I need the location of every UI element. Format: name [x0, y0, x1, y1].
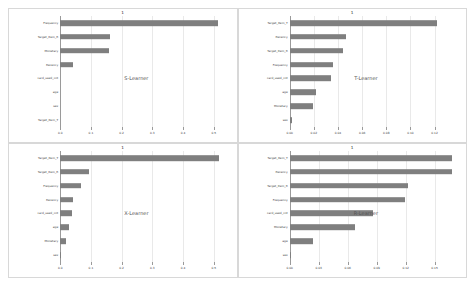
x-tick-label: 0.12: [431, 131, 437, 135]
x-tick-mark: [435, 262, 436, 264]
y-tick-label: sex: [283, 118, 288, 122]
x-tick-mark: [183, 127, 184, 129]
y-tick-label: sex: [283, 253, 288, 257]
plot-area-t-learner: Target_Item_TRecencyTarget_Item_RFrequen…: [290, 16, 459, 127]
x-tick-label: 0.3: [150, 266, 155, 270]
x-tick-label: 0.02: [311, 131, 317, 135]
y-tick-label: age: [282, 239, 287, 243]
gridline-t-learner-2: [338, 16, 339, 127]
bar-monetary: [290, 103, 313, 109]
plot-area-r-learner: Target_Item_TRecencyTarget_Item_RFrequen…: [290, 151, 459, 262]
y-tick-label: age: [53, 90, 58, 94]
gridline-r-learner-1: [319, 151, 320, 262]
x-tick-mark: [338, 127, 339, 129]
x-tick-label: 0.5: [212, 131, 217, 135]
bar-recency: [290, 34, 347, 40]
bar-card-used-cnt: [290, 76, 331, 82]
y-tick-label: Target_Item_R: [267, 49, 287, 53]
bar-target-item-r: [290, 183, 408, 189]
x-tick-mark: [319, 262, 320, 264]
x-tick-label: 0.15: [431, 266, 437, 270]
x-tick-mark: [152, 127, 153, 129]
x-tick-label: 0.0: [58, 266, 63, 270]
gridline-s-learner-4: [183, 16, 184, 127]
x-tick-mark: [348, 262, 349, 264]
panel-annotation-t-learner: T-Learner: [354, 75, 378, 82]
y-tick-label: card_used_cnt: [37, 76, 58, 80]
x-tick-label: 0.06: [344, 266, 350, 270]
x-tick-mark: [152, 262, 153, 264]
x-tick-label: 0.1: [89, 131, 94, 135]
panel-annotation-s-learner: S-Learner: [124, 75, 148, 82]
panel-x-learner: 1Target_Item_TTarget_Item_RFrequencyRece…: [8, 143, 238, 278]
y-tick-label: Target_Item_R: [267, 184, 287, 188]
panel-annotation-r-learner: R-Learner: [354, 210, 378, 217]
panel-s-learner: 1FrequencyTarget_Item_RMonetaryRecencyca…: [8, 8, 238, 143]
x-tick-label: 0.3: [150, 131, 155, 135]
y-tick-label: Target_Item_T: [268, 21, 288, 25]
gridline-s-learner-2: [122, 16, 123, 127]
x-tick-label: 0.08: [383, 131, 389, 135]
x-tick-mark: [386, 127, 387, 129]
bar-target-item-r: [60, 34, 110, 40]
x-tick-mark: [122, 127, 123, 129]
gridline-x-learner-4: [183, 151, 184, 262]
gridline-r-learner-5: [435, 151, 436, 262]
bar-target-item-t: [60, 155, 219, 161]
x-tick-mark: [362, 127, 363, 129]
bar-age: [60, 225, 69, 231]
gridline-t-learner-5: [410, 16, 411, 127]
bar-frequency: [60, 183, 81, 189]
x-tick-label: 0.4: [181, 131, 186, 135]
x-tick-mark: [60, 262, 61, 264]
x-tick-label: 0.00: [286, 131, 292, 135]
x-tick-mark: [290, 127, 291, 129]
bar-frequency: [290, 62, 333, 68]
y-axis-line-x-learner: [60, 151, 61, 262]
y-tick-label: Target_Item_R: [38, 35, 58, 39]
gridline-x-learner-3: [152, 151, 153, 262]
y-tick-label: Frequency: [273, 63, 288, 67]
panel-t-learner: 1Target_Item_TRecencyTarget_Item_RFreque…: [238, 8, 468, 143]
y-tick-label: sex: [53, 253, 58, 257]
y-tick-label: Target_Item_T: [268, 156, 288, 160]
y-tick-label: card_used_cnt: [37, 211, 58, 215]
x-tick-mark: [377, 262, 378, 264]
x-tick-label: 0.0: [58, 131, 63, 135]
x-tick-label: 0.2: [119, 131, 124, 135]
gridline-r-learner-2: [348, 151, 349, 262]
y-tick-label: Target_Item_T: [38, 118, 58, 122]
subplot-grid: 1FrequencyTarget_Item_RMonetaryRecencyca…: [8, 8, 467, 278]
x-tick-mark: [91, 262, 92, 264]
bar-frequency: [60, 20, 218, 26]
x-tick-mark: [314, 127, 315, 129]
x-tick-label: 0.06: [359, 131, 365, 135]
x-tick-mark: [406, 262, 407, 264]
figure-canvas: 1FrequencyTarget_Item_RMonetaryRecencyca…: [0, 0, 475, 286]
bar-recency: [290, 169, 452, 175]
x-tick-mark: [122, 262, 123, 264]
plot-area-x-learner: Target_Item_TTarget_Item_RFrequencyRecen…: [60, 151, 229, 262]
x-tick-mark: [410, 127, 411, 129]
bar-sex: [290, 117, 292, 123]
gridline-x-learner-1: [91, 151, 92, 262]
bar-sex: [60, 252, 61, 258]
panel-r-learner: 1Target_Item_TRecencyTarget_Item_RFreque…: [238, 143, 468, 278]
panel-annotation-x-learner: X-Learner: [124, 210, 148, 217]
y-tick-label: sex: [53, 104, 58, 108]
gridline-t-learner-4: [386, 16, 387, 127]
y-tick-label: Frequency: [273, 198, 288, 202]
bar-frequency: [290, 197, 405, 203]
x-tick-label: 0.12: [402, 266, 408, 270]
gridline-t-learner-1: [314, 16, 315, 127]
x-tick-mark: [183, 262, 184, 264]
x-tick-label: 0.04: [335, 131, 341, 135]
y-tick-label: Monetary: [274, 225, 288, 229]
y-axis-line-s-learner: [60, 16, 61, 127]
x-tick-label: 0.09: [373, 266, 379, 270]
bar-monetary: [60, 238, 66, 244]
x-tick-mark: [290, 262, 291, 264]
y-tick-label: age: [282, 90, 287, 94]
y-tick-label: Recency: [276, 35, 288, 39]
gridline-t-learner-6: [435, 16, 436, 127]
